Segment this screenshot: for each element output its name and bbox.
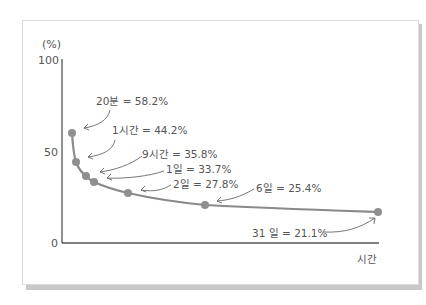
annotation-20min: 20분 = 58.2% [96,95,168,107]
data-point-31days [374,208,382,216]
y-tick-0: 0 [51,237,58,250]
data-point-2days [124,189,132,197]
annotation-1hour: 1시간 = 44.2% [112,124,188,136]
chart-figure: (%) 100 50 0 시간 20분 = 58.2% 1시간 = 44.2% … [0,0,426,305]
y-tick-50: 50 [44,146,58,159]
x-axis-label: 시간 [357,253,377,265]
data-point-6days [201,201,209,209]
annotation-31days: 31 일 = 21.1% [252,227,328,239]
y-unit-label: (%) [42,38,61,51]
data-point-1day [90,178,98,186]
y-tick-100: 100 [38,54,59,67]
data-point-20min [68,129,76,137]
data-point-1hour [72,158,80,166]
annotation-1day: 1일 = 33.7% [166,163,232,175]
data-point-9hours [82,172,90,180]
annotation-6days: 6일 = 25.4% [256,182,322,194]
annotation-2days: 2일 = 27.8% [173,178,239,190]
annotation-9hours: 9시간 = 35.8% [142,148,218,160]
chart-frame [23,21,419,285]
